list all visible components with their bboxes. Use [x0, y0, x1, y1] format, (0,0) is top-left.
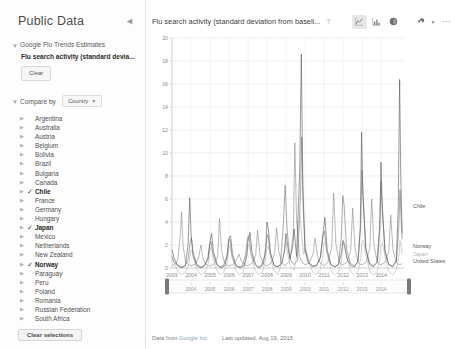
triangle-expand-icon[interactable]: ▶: [20, 159, 27, 168]
country-item[interactable]: ▶Poland: [20, 287, 145, 296]
country-list[interactable]: ▶Argentina▶Australia▶Austria▶Belgium▶Bol…: [0, 114, 145, 322]
triangle-expand-icon[interactable]: ▼: [12, 40, 20, 51]
triangle-expand-icon[interactable]: ▶: [20, 223, 27, 232]
triangle-expand-icon[interactable]: ▶: [20, 187, 27, 196]
country-item[interactable]: ▶Mexico: [20, 232, 145, 241]
country-label: South Africa: [35, 314, 69, 322]
svg-text:16: 16: [162, 81, 168, 87]
triangle-expand-icon[interactable]: ▶: [20, 314, 27, 322]
flu-trends-line-chart[interactable]: 02468101214161820 2003200420052006200720…: [146, 30, 464, 298]
country-item[interactable]: ▶Bulgaria: [20, 169, 145, 178]
country-label: Austria: [35, 132, 55, 141]
svg-text:4: 4: [165, 219, 168, 225]
country-label: Bulgaria: [35, 169, 58, 178]
triangle-expand-icon[interactable]: ▶: [20, 123, 27, 132]
kebab-menu-icon[interactable]: ⋯: [438, 19, 455, 25]
country-item[interactable]: ▶Argentina: [20, 114, 145, 123]
compare-by-section: ▼ Compare by Country ▼: [0, 95, 145, 107]
country-item[interactable]: ▶Russian Federation: [20, 305, 145, 314]
dataset-source-row[interactable]: ▼ Google Flu Trends Estimates: [12, 40, 145, 51]
footer-last-updated: Last updated: Aug 19, 2015: [222, 335, 293, 341]
chevron-down-icon[interactable]: ▼: [431, 19, 436, 25]
triangle-expand-icon[interactable]: ▶: [20, 250, 27, 259]
triangle-expand-icon[interactable]: ▶: [20, 169, 27, 178]
triangle-expand-icon[interactable]: ▶: [20, 114, 27, 123]
country-label: Mexico: [35, 232, 55, 241]
triangle-expand-icon[interactable]: ▶: [20, 232, 27, 241]
country-item[interactable]: ▶✓Norway: [20, 260, 145, 269]
chart-panel: Flu search activity (standard deviation …: [146, 0, 464, 349]
svg-text:2004: 2004: [186, 287, 197, 292]
country-item[interactable]: ▶✓Chile: [20, 187, 145, 196]
country-label: New Zealand: [35, 250, 73, 259]
country-item[interactable]: ▶Canada: [20, 178, 145, 187]
chart-legend: ChileNorwayJapanUnited States: [413, 203, 446, 265]
svg-text:United States: United States: [413, 258, 446, 264]
triangle-expand-icon[interactable]: ▶: [20, 260, 27, 269]
sidebar: Public Data ◄ ▼ Google Flu Trends Estima…: [0, 0, 146, 349]
bar-chart-icon[interactable]: [369, 15, 384, 29]
svg-text:20: 20: [162, 35, 168, 41]
country-item[interactable]: ▶Belgium: [20, 141, 145, 150]
triangle-expand-icon[interactable]: ▶: [20, 287, 27, 296]
triangle-expand-icon[interactable]: ▶: [20, 141, 27, 150]
svg-text:18: 18: [162, 58, 168, 64]
clear-selections-button[interactable]: Clear selections: [18, 329, 82, 341]
triangle-expand-icon[interactable]: ▶: [20, 196, 27, 205]
chevron-left-icon[interactable]: ◄: [122, 16, 137, 26]
country-item[interactable]: ▶Austria: [20, 132, 145, 141]
country-item[interactable]: ▶Netherlands: [20, 241, 145, 250]
svg-text:Norway: Norway: [413, 243, 432, 249]
country-item[interactable]: ▶Australia: [20, 123, 145, 132]
country-item[interactable]: ▶France: [20, 196, 145, 205]
svg-text:2014: 2014: [376, 287, 387, 292]
compare-by-label: Compare by: [20, 98, 56, 105]
svg-text:14: 14: [162, 104, 168, 110]
svg-text:2013: 2013: [357, 287, 368, 292]
svg-text:2012: 2012: [338, 287, 349, 292]
chart-footer: Data from Google Inc. Last updated: Aug …: [152, 335, 293, 341]
chart-plot-area[interactable]: 02468101214161820 2003200420052006200720…: [146, 30, 464, 298]
time-range-slider[interactable]: 2004200520062007200820092010201120122013…: [146, 276, 464, 298]
country-item[interactable]: ▶Paraguay: [20, 269, 145, 278]
country-item[interactable]: ▶Romania: [20, 296, 145, 305]
country-label: Hungary: [35, 214, 59, 223]
clear-button[interactable]: Clear: [21, 66, 51, 81]
country-item[interactable]: ▶Hungary: [20, 214, 145, 223]
y-axis-ticks: 02468101214161820: [162, 35, 172, 271]
triangle-expand-icon[interactable]: ▶: [20, 278, 27, 287]
map-globe-icon[interactable]: [386, 15, 401, 29]
country-item[interactable]: ▶South Africa: [20, 314, 145, 322]
country-item[interactable]: ▶New Zealand: [20, 250, 145, 259]
triangle-expand-icon[interactable]: ▶: [20, 205, 27, 214]
country-label: Brazil: [35, 159, 51, 168]
svg-text:2: 2: [165, 242, 168, 248]
country-item[interactable]: ▶Bolivia: [20, 150, 145, 159]
line-chart-icon[interactable]: [352, 15, 367, 29]
country-item[interactable]: ▶Brazil: [20, 159, 145, 168]
footer-source-link[interactable]: Google Inc.: [179, 335, 209, 341]
triangle-expand-icon-compare[interactable]: ▼: [12, 96, 20, 107]
svg-text:10: 10: [162, 150, 168, 156]
question-mark-icon[interactable]: ?: [326, 18, 330, 25]
check-icon: ✓: [27, 260, 35, 269]
triangle-expand-icon[interactable]: ▶: [20, 132, 27, 141]
triangle-expand-icon[interactable]: ▶: [20, 150, 27, 159]
svg-text:2010: 2010: [300, 287, 311, 292]
triangle-expand-icon[interactable]: ▶: [20, 305, 27, 314]
triangle-expand-icon[interactable]: ▶: [20, 241, 27, 250]
country-item[interactable]: ▶Germany: [20, 205, 145, 214]
country-label: Paraguay: [35, 269, 62, 278]
country-item[interactable]: ▶✓Japan: [20, 223, 145, 232]
triangle-expand-icon[interactable]: ▶: [20, 178, 27, 187]
gear-icon[interactable]: [414, 15, 429, 29]
svg-text:12: 12: [162, 127, 168, 133]
svg-text:2008: 2008: [262, 287, 273, 292]
compare-by-dropdown[interactable]: Country ▼: [62, 95, 102, 107]
svg-text:Chile: Chile: [413, 203, 425, 209]
triangle-expand-icon[interactable]: ▶: [20, 214, 27, 223]
triangle-expand-icon[interactable]: ▶: [20, 296, 27, 305]
triangle-expand-icon[interactable]: ▶: [20, 269, 27, 278]
check-icon: ✓: [27, 223, 35, 232]
country-item[interactable]: ▶Peru: [20, 278, 145, 287]
